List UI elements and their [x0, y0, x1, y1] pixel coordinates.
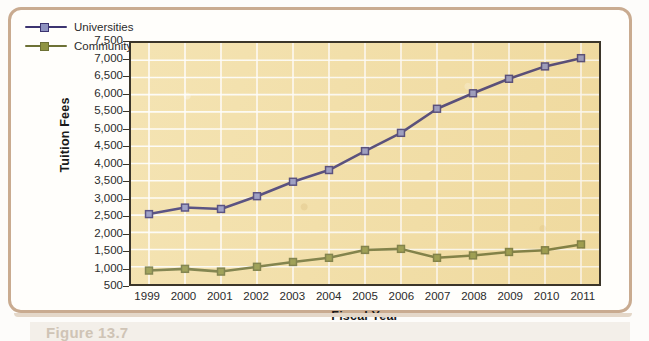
y-axis-title: Tuition Fees — [58, 75, 72, 195]
data-point-universities — [470, 90, 477, 97]
data-point-community-colleges — [326, 254, 333, 261]
figure-frame-shadow — [14, 313, 632, 317]
y-tick-label: 7,000 — [71, 53, 123, 65]
x-tick-label: 2004 — [316, 291, 342, 303]
data-point-universities — [290, 178, 297, 185]
data-point-universities — [362, 148, 369, 155]
data-point-universities — [146, 211, 153, 218]
data-point-community-colleges — [362, 246, 369, 253]
y-tick-label: 1,500 — [71, 245, 123, 257]
data-point-community-colleges — [470, 252, 477, 259]
data-point-universities — [326, 167, 333, 174]
y-tick-label: 5,500 — [71, 105, 123, 117]
data-point-community-colleges — [290, 259, 297, 266]
x-tick-label: 1999 — [134, 291, 160, 303]
figure-caption-strip: Figure 13.7 — [30, 322, 630, 341]
data-point-community-colleges — [218, 268, 225, 275]
figure-root: Universities Community Colleges 5001,000… — [0, 0, 649, 341]
data-point-universities — [506, 75, 513, 82]
data-point-community-colleges — [506, 249, 513, 256]
y-tick-label: 7,500 — [71, 35, 123, 47]
data-point-community-colleges — [542, 247, 549, 254]
y-tick-label: 1,000 — [71, 263, 123, 275]
y-tick-label: 5,000 — [71, 123, 123, 135]
data-point-community-colleges — [578, 241, 585, 248]
chart-canvas — [131, 43, 599, 284]
data-point-community-colleges — [254, 263, 261, 270]
x-tick-label: 2006 — [389, 291, 415, 303]
y-tick-label: 6,500 — [71, 70, 123, 82]
figure-caption: Figure 13.7 — [46, 324, 129, 341]
x-tick-label: 2003 — [280, 291, 306, 303]
data-point-universities — [254, 193, 261, 200]
x-tick-label: 2008 — [461, 291, 487, 303]
x-tick-label: 2002 — [243, 291, 269, 303]
x-tick-label: 2000 — [171, 291, 197, 303]
y-tick-mark — [123, 286, 129, 287]
plot-area — [129, 41, 601, 286]
y-axis-tick-labels: 5001,0001,5002,0002,5003,0003,5004,0004,… — [67, 41, 123, 286]
data-point-universities — [542, 63, 549, 70]
x-tick-label: 2001 — [207, 291, 233, 303]
x-tick-label: 2011 — [570, 291, 595, 303]
y-tick-label: 3,000 — [71, 193, 123, 205]
data-point-universities — [578, 55, 585, 62]
legend-swatch-universities — [25, 21, 67, 33]
x-axis-tick-labels: 1999200020012002200320042005200620072008… — [129, 291, 601, 307]
data-point-community-colleges — [434, 254, 441, 261]
data-point-universities — [434, 105, 441, 112]
x-tick-label: 2005 — [352, 291, 378, 303]
legend-label-universities: Universities — [74, 21, 133, 33]
data-point-universities — [218, 206, 225, 213]
figure-frame: Universities Community Colleges 5001,000… — [8, 7, 632, 313]
data-point-community-colleges — [398, 245, 405, 252]
x-tick-label: 2007 — [425, 291, 451, 303]
x-tick-label: 2010 — [534, 291, 560, 303]
y-tick-label: 4,000 — [71, 158, 123, 170]
y-tick-label: 3,500 — [71, 175, 123, 187]
y-tick-label: 500 — [71, 280, 123, 292]
y-tick-label: 2,000 — [71, 228, 123, 240]
data-point-universities — [182, 204, 189, 211]
y-tick-label: 2,500 — [71, 210, 123, 222]
data-point-universities — [398, 129, 405, 136]
data-point-community-colleges — [146, 267, 153, 274]
y-tick-label: 4,500 — [71, 140, 123, 152]
x-tick-label: 2009 — [497, 291, 523, 303]
legend-item-universities[interactable]: Universities — [25, 18, 215, 35]
y-tick-label: 6,000 — [71, 88, 123, 100]
data-point-community-colleges — [182, 265, 189, 272]
